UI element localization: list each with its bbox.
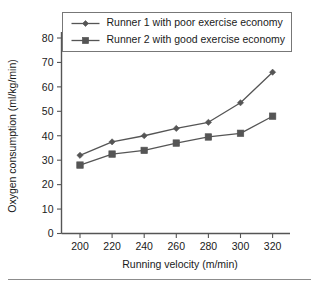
data-point-marker — [269, 113, 276, 120]
x-axis-tick-label: 300 — [232, 240, 250, 252]
y-axis-tick-label: 20 — [42, 178, 54, 190]
data-point-marker — [173, 140, 180, 147]
data-point-marker — [109, 151, 116, 158]
y-axis-tick-label: 0 — [48, 227, 54, 239]
y-axis-tick-label: 40 — [42, 130, 54, 142]
data-point-marker — [77, 162, 84, 169]
data-point-marker — [205, 134, 212, 141]
x-axis-title: Running velocity (m/min) — [122, 258, 238, 270]
y-axis-tick-label: 30 — [42, 154, 54, 166]
data-point-marker — [141, 147, 148, 154]
chart-figure: 01020304050607080 200220240260280300320 … — [0, 0, 319, 286]
x-axis-tick-label: 320 — [264, 240, 282, 252]
chart-legend: Runner 1 with poor exercise economyRunne… — [63, 13, 292, 52]
x-axis-tick-label: 260 — [168, 240, 186, 252]
y-axis-tick-label: 70 — [42, 56, 54, 68]
y-axis-title: Oxygen consumption (ml/kg/min) — [6, 59, 18, 212]
data-point-marker — [82, 37, 88, 43]
oxygen-consumption-line-chart: 01020304050607080 200220240260280300320 … — [0, 0, 319, 286]
legend-label: Runner 2 with good exercise economy — [107, 33, 286, 45]
x-axis-tick-label: 200 — [71, 240, 89, 252]
legend-label: Runner 1 with poor exercise economy — [107, 16, 284, 28]
y-axis-tick-label: 50 — [42, 105, 54, 117]
x-axis-tick-label: 220 — [103, 240, 121, 252]
y-axis-tick-label: 10 — [42, 203, 54, 215]
x-axis-tick-label: 280 — [200, 240, 218, 252]
y-axis-tick-label: 60 — [42, 81, 54, 93]
y-axis-tick-label: 80 — [42, 32, 54, 44]
data-point-marker — [237, 130, 244, 137]
x-axis-tick-label: 240 — [135, 240, 153, 252]
